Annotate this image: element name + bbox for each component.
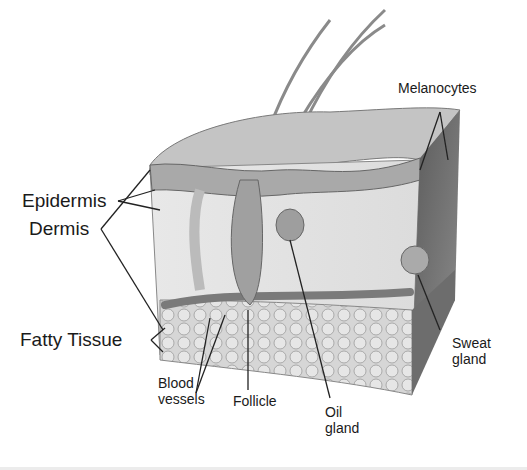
label-oil-gland-line1: Oil [325,404,359,420]
label-melanocytes: Melanocytes [398,80,477,96]
label-epidermis: Epidermis [22,190,106,212]
label-fatty-tissue: Fatty Tissue [20,329,122,351]
label-sweat-gland: Sweat gland [452,335,491,367]
label-dermis: Dermis [29,218,89,240]
label-oil-gland-line2: gland [325,420,359,436]
label-sweat-gland-line1: Sweat [452,335,491,351]
oil-gland [276,209,304,241]
label-oil-gland: Oil gland [325,404,359,436]
label-blood-vessels-line2: vessels [158,391,205,407]
label-blood-vessels-line1: Blood [158,375,205,391]
skin-diagram: Epidermis Dermis Fatty Tissue Melanocyte… [0,0,527,470]
label-blood-vessels: Blood vessels [158,375,205,407]
label-sweat-gland-line2: gland [452,351,491,367]
sweat-duct [194,190,200,290]
sweat-gland-coil [401,246,429,274]
label-follicle: Follicle [233,393,277,409]
